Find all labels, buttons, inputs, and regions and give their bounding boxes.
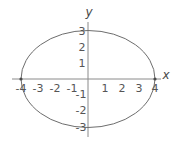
x-tick-label-4: 4 [152,83,159,94]
x-tick-label-neg4: -4 [16,83,27,94]
y-tick-label-2: 2 [79,42,86,53]
x-tick-label-2: 2 [119,83,126,94]
left-vertex-point [19,77,22,80]
x-axis-label: x [162,70,169,81]
graph-figure: y x -4 -3 -2 -1 1 2 3 4 3 2 1 -1 -2 -3 [0,0,176,146]
x-tick-label-3: 3 [136,83,143,94]
y-tick-label-neg1: -1 [76,89,87,100]
x-tick-label-1: 1 [102,83,109,94]
y-axis-label: y [85,7,92,18]
x-tick-label-neg2: -2 [50,83,61,94]
y-tick-label-1: 1 [79,58,86,69]
right-vertex-point [153,77,156,80]
y-tick-label-neg2: -2 [76,105,87,116]
y-tick-label-neg3: -3 [76,122,87,133]
ellipse-plot-canvas [0,0,176,146]
x-tick-label-neg3: -3 [33,83,44,94]
y-tick-label-3: 3 [79,26,86,37]
